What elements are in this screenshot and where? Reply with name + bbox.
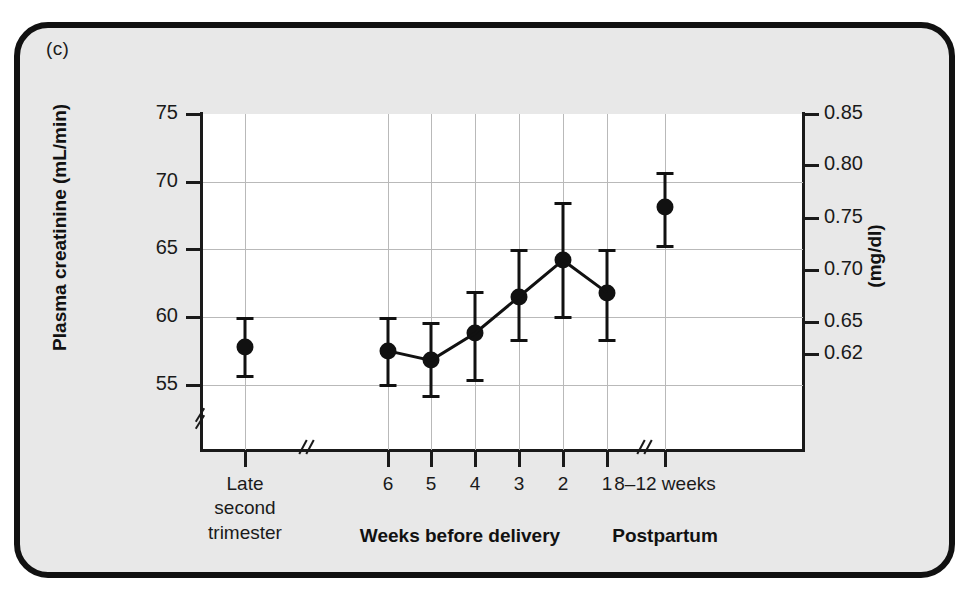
error-bar-cap-upper-late-second-trimester: [237, 317, 254, 320]
x-gridline: [388, 114, 389, 450]
y-gridline: [203, 317, 803, 318]
data-point-postpartum-8-12-weeks: [657, 199, 674, 216]
y-gridline: [203, 385, 803, 386]
y-tick-left: [186, 384, 201, 387]
x-tick-label: 6: [383, 472, 394, 496]
x-tick: [562, 452, 565, 467]
y-tick-right: [804, 113, 819, 116]
panel-label: (c): [46, 38, 69, 60]
y-tick-label-right: 0.62: [824, 341, 894, 364]
x-tick-label: 3: [514, 472, 525, 496]
x-tick-label: 2: [558, 472, 569, 496]
x-tick-label: Latesecondtrimester: [208, 472, 282, 545]
y-tick-label-left: 55: [118, 372, 178, 395]
error-bar-cap-upper-postpartum-8-12-weeks: [657, 172, 674, 175]
x-gridline: [431, 114, 432, 450]
x-axis-group-title: Postpartum: [612, 525, 718, 547]
y-tick-label-left: 75: [118, 101, 178, 124]
x-gridline: [665, 114, 666, 450]
data-point-week-3: [511, 288, 528, 305]
x-axis-break-icon-left: [295, 440, 317, 462]
y-axis-right-spine: [802, 112, 805, 452]
y-tick-right: [804, 321, 819, 324]
error-bar-cap-upper-week-4: [467, 291, 484, 294]
x-tick: [518, 452, 521, 467]
y-tick-label-left: 70: [118, 169, 178, 192]
x-gridline: [245, 114, 246, 450]
error-bar-cap-upper-week-2: [555, 202, 572, 205]
figure-root: (c) 75706560550.850.800.750.700.650.62La…: [0, 0, 973, 612]
x-tick: [664, 452, 667, 467]
data-point-week-6: [380, 342, 397, 359]
error-bar-cap-lower-postpartum-8-12-weeks: [657, 245, 674, 248]
plot-area: [203, 114, 803, 450]
y-axis-left-spine: [200, 112, 203, 452]
x-tick: [606, 452, 609, 467]
error-bar-cap-upper-week-3: [511, 249, 528, 252]
x-axis-break-icon-right: [633, 440, 655, 462]
y-gridline: [203, 249, 803, 250]
y-tick-right: [804, 217, 819, 220]
x-tick-label-line: 2: [558, 472, 569, 496]
error-bar-cap-upper-week-1: [599, 249, 616, 252]
y-tick-left: [186, 316, 201, 319]
x-tick: [387, 452, 390, 467]
y-axis-break-icon: [192, 408, 214, 430]
x-gridline: [475, 114, 476, 450]
x-tick-label-line: 1: [602, 472, 613, 496]
y-axis-title-right: (mg/dl): [864, 196, 886, 316]
data-point-week-2: [555, 252, 572, 269]
y-gridline: [203, 182, 803, 183]
data-point-week-5: [423, 352, 440, 369]
x-tick-label: 5: [426, 472, 437, 496]
y-tick-left: [186, 248, 201, 251]
data-point-week-1: [599, 284, 616, 301]
x-tick-label-line: 6: [383, 472, 394, 496]
error-bar-cap-lower-week-6: [380, 384, 397, 387]
x-tick-label-line: 5: [426, 472, 437, 496]
y-tick-left: [186, 113, 201, 116]
y-tick-right: [804, 269, 819, 272]
data-point-week-4: [467, 325, 484, 342]
error-bar-cap-upper-week-5: [423, 322, 440, 325]
x-tick-label-line: 8–12 weeks: [614, 472, 715, 496]
x-axis-spine: [200, 449, 805, 452]
y-axis-title-left: Plasma creatinine (mL/min): [48, 97, 73, 357]
x-tick-label: 8–12 weeks: [614, 472, 715, 496]
y-tick-label-right: 0.80: [824, 152, 894, 175]
y-tick-label-right: 0.85: [824, 101, 894, 124]
y-tick-label-left: 60: [118, 304, 178, 327]
x-tick: [430, 452, 433, 467]
x-tick-label-line: trimester: [208, 521, 282, 545]
error-bar-cap-lower-week-4: [467, 379, 484, 382]
x-tick: [474, 452, 477, 467]
error-bar-cap-lower-week-5: [423, 395, 440, 398]
error-bar-cap-lower-late-second-trimester: [237, 375, 254, 378]
error-bar-cap-lower-week-1: [599, 339, 616, 342]
y-tick-left: [186, 181, 201, 184]
y-tick-right: [804, 353, 819, 356]
x-tick-label-line: 3: [514, 472, 525, 496]
x-tick-label-line: second: [208, 496, 282, 520]
error-bar-cap-lower-week-3: [511, 339, 528, 342]
error-bar-cap-upper-week-6: [380, 317, 397, 320]
y-tick-label-left: 65: [118, 236, 178, 259]
x-axis-group-title: Weeks before delivery: [360, 525, 560, 547]
x-tick: [244, 452, 247, 467]
x-tick-label-line: 4: [470, 472, 481, 496]
x-tick-label: 1: [602, 472, 613, 496]
data-point-late-second-trimester: [237, 338, 254, 355]
x-tick-label-line: Late: [208, 472, 282, 496]
y-tick-right: [804, 164, 819, 167]
error-bar-cap-lower-week-2: [555, 316, 572, 319]
x-tick-label: 4: [470, 472, 481, 496]
